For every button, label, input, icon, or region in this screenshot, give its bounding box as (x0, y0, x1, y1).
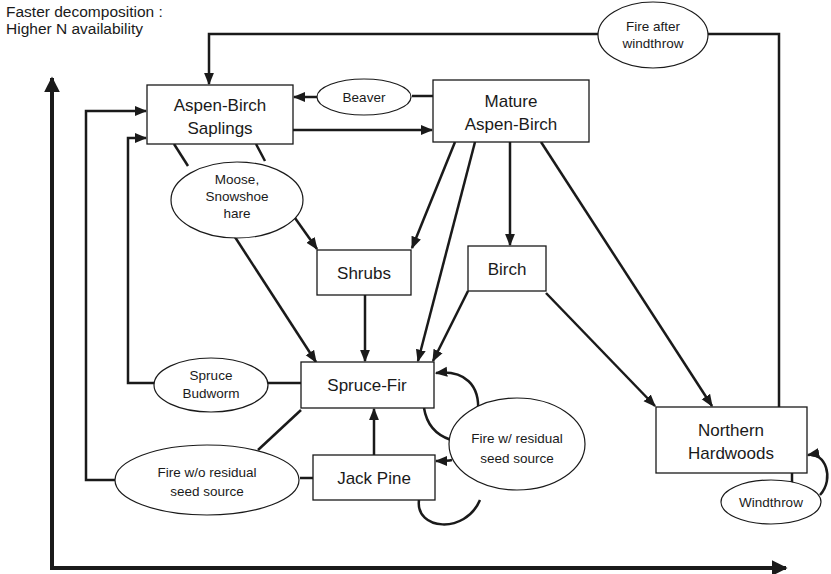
ellipse-windthrow: Windthrow (721, 480, 821, 524)
connector-sprucefir-to-fire-wo (258, 410, 301, 450)
ellipse-fire-w-residual: Fire w/ residual seed source (449, 398, 585, 490)
box-birch: Birch (468, 246, 546, 291)
ellipse-label: seed source (170, 484, 244, 499)
box-aspen-birch-saplings: Aspen-Birch Saplings (147, 85, 293, 144)
box-jack-pine: Jack Pine (313, 455, 435, 500)
box-label: Shrubs (337, 264, 391, 283)
connector-saplings-to-moose-left (174, 144, 188, 166)
connector-jackpine-to-fire-w (419, 500, 480, 524)
box-label: Northern (698, 421, 764, 440)
connector-fire-w-to-jackpine (436, 460, 452, 461)
ellipse-fire-wo-residual: Fire w/o residual seed source (115, 445, 299, 515)
ellipse-label: Budworm (182, 386, 239, 401)
connector-moose-to-sprucefir (233, 234, 316, 362)
box-spruce-fir: Spruce-Fir (301, 362, 434, 408)
box-label: Saplings (187, 119, 252, 138)
succession-diagram: Aspen-Birch Saplings Mature Aspen-Birch … (0, 0, 831, 574)
connector-mature-to-nh (541, 142, 712, 406)
connector-birch-to-sprucefir (433, 291, 468, 361)
connector-nh-to-fire-after-windthrow (708, 34, 779, 407)
ellipse-label: Moose, (215, 172, 259, 187)
connector-budworm-to-saplings (128, 138, 155, 383)
connector-mature-to-sprucefir (418, 142, 475, 361)
connector-fire-w-to-sprucefir (436, 373, 478, 412)
box-shrubs: Shrubs (317, 250, 411, 295)
ellipse-moose-snowshoe-hare: Moose, Snowshoe hare (171, 162, 303, 238)
connector-mature-to-shrubs (412, 142, 455, 248)
ellipse-label: Spruce (190, 368, 233, 383)
ellipse-label: seed source (480, 451, 554, 466)
connector-birch-to-nh (546, 293, 655, 406)
box-label: Hardwoods (688, 444, 774, 463)
ellipse-label: Windthrow (739, 495, 803, 510)
box-label: Aspen-Birch (465, 115, 558, 134)
ellipse-label: Fire after (626, 19, 681, 34)
ellipse-fire-after-windthrow: Fire after windthrow (598, 2, 708, 68)
ellipse-spruce-budworm: Spruce Budworm (154, 358, 268, 412)
box-label: Aspen-Birch (174, 96, 267, 115)
box-label: Birch (488, 260, 527, 279)
ellipse-beaver: Beaver (317, 79, 411, 115)
ellipse-label: Fire w/o residual (157, 465, 256, 480)
ellipse-label: Fire w/ residual (471, 431, 563, 446)
ellipse-label: Beaver (343, 90, 386, 105)
ellipse-label: hare (223, 206, 250, 221)
box-northern-hardwoods: Northern Hardwoods (656, 407, 807, 473)
connector-moose-to-shrubs (295, 218, 317, 249)
connector-fire-after-windthrow-to-saplings (209, 34, 598, 84)
box-label: Jack Pine (337, 469, 411, 488)
ellipse-label: Snowshoe (205, 189, 268, 204)
ellipse-label: windthrow (622, 36, 684, 51)
box-label: Mature (485, 92, 538, 111)
box-mature-aspen-birch: Mature Aspen-Birch (433, 80, 589, 142)
box-label: Spruce-Fir (327, 376, 407, 395)
connector-saplings-to-moose (256, 144, 265, 161)
connector-fire-wo-to-saplings (86, 111, 146, 480)
